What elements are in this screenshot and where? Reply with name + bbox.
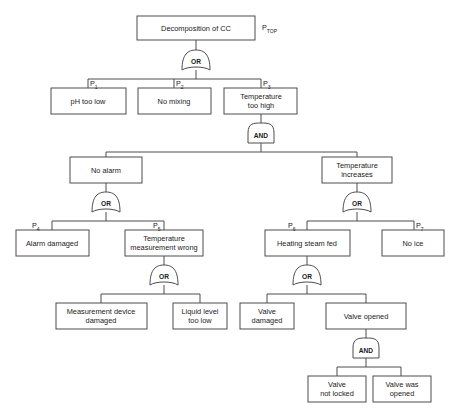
node-label-top: Decomposition of CC	[161, 24, 231, 33]
node-valve-not-locked[interactable]: Valve not locked	[308, 376, 366, 402]
prob-sub-p4: 4	[37, 226, 40, 232]
and-gate-temp-too-high[interactable]: AND	[248, 123, 274, 143]
prob-label-p1: P1	[90, 79, 98, 90]
prob-label-p3: P3	[263, 79, 271, 90]
or-gate-top-label: OR	[191, 58, 201, 65]
svg-text:P5: P5	[153, 221, 161, 232]
svg-text:P7: P7	[416, 221, 424, 232]
prob-sub-p5: 5	[158, 226, 161, 232]
prob-label-p5: P5	[153, 221, 161, 232]
node-label-valve-not-locked-2: not locked	[320, 389, 354, 398]
node-temp-too-high[interactable]: Temperature too high	[224, 88, 297, 114]
prob-label-p2: P2	[176, 79, 184, 90]
node-no-alarm[interactable]: No alarm	[70, 157, 142, 183]
node-label-valve-was-opened-1: Valve was	[385, 380, 418, 389]
fault-tree-diagram: Decomposition of CC PTOP pH too low P1 N…	[0, 0, 459, 410]
prob-sub-p3: 3	[268, 84, 271, 90]
or-gate-heating-steam[interactable]: OR	[293, 265, 321, 285]
svg-text:P3: P3	[263, 79, 271, 90]
node-label-alarm-damaged: Alarm damaged	[26, 239, 78, 248]
node-label-liquid-level-too-low-2: too low	[188, 316, 212, 325]
and-gate-valve-opened[interactable]: AND	[353, 338, 379, 358]
prob-label-p7: P7	[416, 221, 424, 232]
node-label-liquid-level-too-low-1: Liquid level	[182, 307, 219, 316]
prob-sub-p2: 2	[181, 84, 184, 90]
or-gate-no-alarm-label: OR	[101, 200, 111, 207]
node-temp-meas-wrong[interactable]: Temperature measurement wrong	[125, 230, 203, 256]
node-heating-steam-fed[interactable]: Heating steam fed	[265, 230, 350, 256]
prob-label-p4: P4	[32, 221, 40, 232]
node-label-temp-meas-wrong-2: measurement wrong	[130, 243, 197, 252]
and-gate-temp-label: AND	[254, 132, 269, 139]
node-liquid-level-too-low[interactable]: Liquid level too low	[173, 303, 227, 329]
node-label-valve-was-opened-2: opened	[390, 389, 415, 398]
node-top[interactable]: Decomposition of CC	[137, 16, 255, 40]
or-gate-heating-steam-label: OR	[302, 273, 312, 280]
svg-text:P4: P4	[32, 221, 40, 232]
svg-text:PTOP: PTOP	[262, 23, 278, 34]
node-label-valve-opened: Valve opened	[344, 312, 389, 321]
node-alarm-damaged[interactable]: Alarm damaged	[16, 230, 89, 256]
node-label-temp-increases-2: increases	[341, 170, 373, 179]
node-meas-device-damaged[interactable]: Measurement device damaged	[56, 303, 147, 329]
prob-sub-p6: 6	[293, 226, 296, 232]
or-gate-top[interactable]: OR	[182, 50, 210, 70]
svg-text:P6: P6	[288, 221, 296, 232]
node-label-meas-device-damaged-2: damaged	[86, 316, 117, 325]
node-label-temp-meas-wrong-1: Temperature	[143, 234, 185, 243]
node-no-ice[interactable]: No ice	[382, 230, 444, 256]
svg-text:P2: P2	[176, 79, 184, 90]
node-label-heating-steam-fed: Heating steam fed	[277, 239, 337, 248]
node-label-valve-not-locked-1: Valve	[328, 380, 346, 389]
node-temp-increases[interactable]: Temperature increases	[322, 157, 392, 183]
node-label-valve-damaged-1: Valve	[258, 307, 276, 316]
node-no-mixing[interactable]: No mixing	[138, 88, 211, 114]
or-gate-temp-increases[interactable]: OR	[343, 192, 371, 212]
node-label-temp-too-high-1: Temperature	[240, 92, 282, 101]
node-label-temp-increases-1: Temperature	[336, 161, 378, 170]
node-label-valve-damaged-2: damaged	[252, 316, 283, 325]
prob-label-p6: P6	[288, 221, 296, 232]
node-label-meas-device-damaged-1: Measurement device	[67, 307, 136, 316]
or-gate-temp-increases-label: OR	[352, 200, 362, 207]
and-gate-valve-label: AND	[359, 347, 374, 354]
node-label-no-alarm: No alarm	[91, 166, 121, 175]
svg-text:P1: P1	[90, 79, 98, 90]
node-ph-too-low[interactable]: pH too low	[51, 88, 126, 114]
node-label-ph-too-low: pH too low	[71, 97, 107, 106]
or-gate-no-alarm[interactable]: OR	[92, 192, 120, 212]
prob-label-top: PTOP	[262, 23, 278, 34]
or-gate-temp-meas-label: OR	[159, 273, 169, 280]
node-label-no-ice: No ice	[403, 239, 424, 248]
fault-tree-canvas: Decomposition of CC PTOP pH too low P1 N…	[0, 0, 459, 410]
or-gate-temp-meas[interactable]: OR	[150, 265, 178, 285]
prob-sub-p1: 1	[95, 84, 98, 90]
node-valve-damaged[interactable]: Valve damaged	[240, 303, 294, 329]
node-valve-opened[interactable]: Valve opened	[326, 303, 406, 329]
prob-sub-top: TOP	[267, 28, 278, 34]
node-label-no-mixing: No mixing	[158, 97, 191, 106]
node-label-temp-too-high-2: too high	[248, 101, 274, 110]
prob-sub-p7: 7	[421, 226, 424, 232]
node-valve-was-opened[interactable]: Valve was opened	[373, 376, 431, 402]
